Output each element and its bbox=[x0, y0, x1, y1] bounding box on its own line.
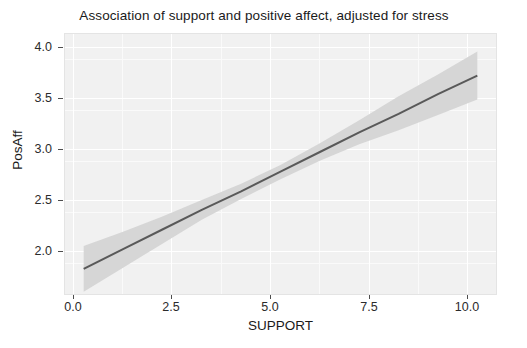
y-tick-mark-2.0 bbox=[58, 251, 63, 252]
x-tick-mark-5.0 bbox=[270, 295, 271, 299]
y-axis-title-wrap: PosAff bbox=[0, 0, 40, 348]
x-tick-label-10.0: 10.0 bbox=[437, 300, 497, 314]
x-tick-label-7.5: 7.5 bbox=[339, 300, 399, 314]
plot-panel bbox=[64, 33, 497, 295]
y-tick-mark-3.0 bbox=[58, 149, 63, 150]
y-tick-mark-3.5 bbox=[58, 98, 63, 99]
x-tick-mark-0.0 bbox=[73, 295, 74, 299]
x-tick-label-5.0: 5.0 bbox=[240, 300, 300, 314]
chart-title: Association of support and positive affe… bbox=[64, 8, 464, 24]
plot-geometry bbox=[64, 33, 497, 295]
x-tick-mark-7.5 bbox=[369, 295, 370, 299]
y-axis-title: PosAff bbox=[10, 110, 26, 190]
y-tick-mark-2.5 bbox=[58, 200, 63, 201]
x-tick-label-2.5: 2.5 bbox=[141, 300, 201, 314]
x-tick-label-0.0: 0.0 bbox=[43, 300, 103, 314]
regression-line bbox=[84, 76, 478, 269]
chart-figure: Association of support and positive affe… bbox=[0, 0, 527, 348]
x-tick-mark-10.0 bbox=[467, 295, 468, 299]
x-tick-mark-2.5 bbox=[171, 295, 172, 299]
y-tick-mark-4.0 bbox=[58, 47, 63, 48]
caption-partial bbox=[40, 341, 500, 348]
x-axis-title: SUPPORT bbox=[64, 318, 497, 334]
